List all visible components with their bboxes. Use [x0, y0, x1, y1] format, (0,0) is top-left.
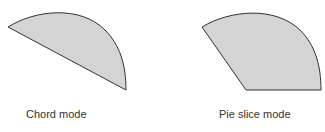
chord-shape [8, 13, 126, 90]
chord-mode-label: Chord mode [26, 108, 87, 120]
pie-slice-mode-label: Pie slice mode [219, 108, 291, 120]
pie-slice-shape [202, 13, 321, 90]
